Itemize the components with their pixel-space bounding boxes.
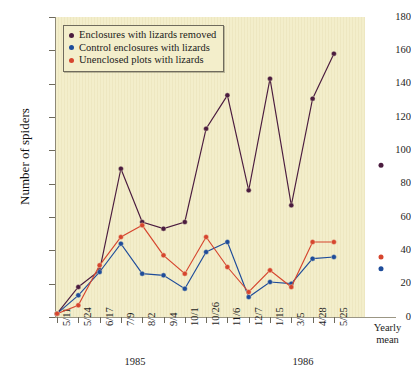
y-axis-title: Number of spiders [18,37,31,277]
chart-figure: Number of spiders 0204060801001201401601… [0,0,411,376]
x-tick-label-6-17: 6/17 [104,307,115,326]
y-axis-line [55,17,56,318]
legend-marker-blue [69,45,74,50]
y-tick-140 [49,84,55,85]
y-tick-80 [49,184,55,185]
legend-label-2: Unenclosed plots with lizards [79,54,204,66]
legend-marker-red [69,58,74,63]
y-tick-label-120: 120 [365,112,411,123]
legend-item-unenclosed-plots-with-lizards: Unenclosed plots with lizards [69,54,216,67]
y-tick-label-20: 20 [365,278,411,289]
x-tick-10-1 [185,317,186,323]
x-tick-label-8-2: 8/2 [146,313,157,326]
y-tick-label-160: 160 [365,45,411,56]
x-tick-label-12-7: 12/7 [253,307,264,326]
x-tick-label-4-28: 4/28 [317,307,328,326]
x-tick-label-3-5: 3/5 [295,313,306,326]
x-tick-1-15 [270,317,271,323]
legend-marker-purple [69,33,74,38]
y-tick-label-100: 100 [365,145,411,156]
x-tick-3-5 [291,317,292,323]
y-tick-label-80: 80 [365,178,411,189]
yearly-mean-line-1: Yearly [364,322,411,334]
y-tick-100 [49,150,55,151]
y-tick-label-0: 0 [365,312,411,323]
x-tick-label-5-25: 5/25 [338,307,349,326]
y-tick-label-60: 60 [365,212,411,223]
legend: Enclosures with lizards removed Control … [63,25,224,72]
x-tick-label-10-1: 10/1 [189,307,200,326]
x-tick-5-11 [57,317,58,323]
y-tick-label-180: 180 [365,12,411,23]
x-tick-5-25 [334,317,335,323]
x-tick-8-2 [142,317,143,323]
yearly-mean-point-control-enclosures-with-lizards [379,266,384,271]
y-tick-160 [49,50,55,51]
y-tick-60 [49,217,55,218]
legend-item-enclosures-lizards-removed: Enclosures with lizards removed [69,29,216,42]
yearly-mean-line-2: mean [364,334,411,346]
x-tick-label-5-11: 5/11 [61,308,72,326]
x-axis-label-yearly-mean: Yearly mean [364,322,411,346]
x-tick-11-6 [227,317,228,323]
x-axis-group-label-1986: 1986 [248,356,358,367]
legend-label-1: Control enclosures with lizards [79,42,210,54]
x-tick-label-10-26: 10/26 [210,302,221,326]
x-tick-label-5-24: 5/24 [82,307,93,326]
yearly-mean-point-enclosures-with-lizards-removed [379,163,384,168]
y-tick-20 [49,284,55,285]
x-tick-4-28 [313,317,314,323]
y-tick-40 [49,250,55,251]
x-tick-label-7-9: 7/9 [125,313,136,326]
x-tick-7-9 [121,317,122,323]
legend-item-control-enclosures-with-lizards: Control enclosures with lizards [69,42,216,55]
x-tick-9-4 [164,317,165,323]
x-tick-label-9-4: 9/4 [168,313,179,326]
x-tick-12-7 [249,317,250,323]
x-axis-group-label-1985: 1985 [75,356,195,367]
x-tick-6-17 [100,317,101,323]
y-tick-120 [49,117,55,118]
x-tick-label-1-15: 1/15 [274,307,285,326]
y-tick-180 [49,17,55,18]
x-tick-10-26 [206,317,207,323]
y-tick-label-40: 40 [365,245,411,256]
y-tick-0 [49,317,55,318]
legend-label-0: Enclosures with lizards removed [79,29,216,41]
y-tick-label-140: 140 [365,78,411,89]
x-tick-label-11-6: 11/6 [231,308,242,326]
x-tick-5-24 [78,317,79,323]
